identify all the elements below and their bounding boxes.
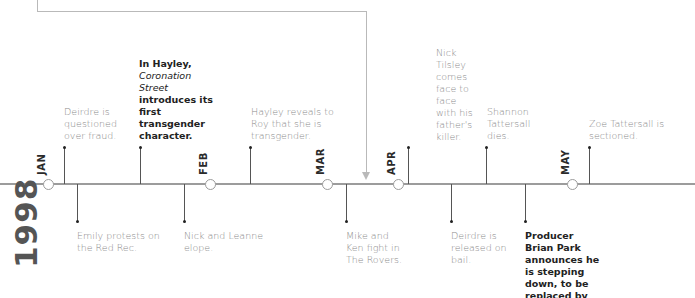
event-tick-dot: [345, 220, 348, 223]
event-tick: [250, 147, 251, 184]
event-text: introduces its first transgender charact…: [139, 94, 213, 141]
event-tick-dot: [63, 146, 66, 149]
arrow-down-icon: [362, 172, 370, 180]
show-title: Coronation Street: [139, 70, 191, 93]
event-shannon-dies: Shannon Tattersall dies.: [487, 106, 547, 142]
event-tick: [525, 184, 526, 222]
month-label-jan: JAN: [36, 154, 47, 175]
event-tick: [140, 147, 141, 184]
event-tick-dot: [524, 220, 527, 223]
event-tick: [589, 147, 590, 184]
event-nick-tilsley: Nick Tilsley comes face to face with his…: [436, 47, 476, 143]
event-tick-dot: [588, 146, 591, 149]
event-tick: [184, 184, 185, 222]
event-zoe-sectioned: Zoe Tattersall is sectioned.: [589, 118, 689, 142]
event-deirdre-questioned: Deirdre is questioned over fraud.: [64, 106, 136, 142]
event-tick-dot: [249, 146, 252, 149]
timeline-axis: [0, 183, 695, 185]
month-marker-feb: [205, 179, 216, 190]
year-label: 1998: [8, 178, 44, 268]
event-tick: [486, 147, 487, 184]
connector-line: [37, 11, 367, 12]
month-marker-may: [567, 179, 578, 190]
month-label-mar: MAR: [315, 148, 326, 175]
event-tick: [77, 184, 78, 222]
event-tick: [451, 184, 452, 222]
event-tick-dot: [485, 146, 488, 149]
connector-line: [366, 11, 367, 178]
event-tick-dot: [183, 220, 186, 223]
month-marker-apr: [393, 179, 404, 190]
event-tick-dot: [76, 220, 79, 223]
event-tick: [64, 147, 65, 184]
timeline-diagram: JAN FEB MAR APR MAY Deirdre is questione…: [0, 0, 695, 298]
event-tick: [346, 184, 347, 222]
event-hayley-introduced: In Hayley, Coronation Street introduces …: [139, 58, 219, 142]
event-tick-dot: [407, 146, 410, 149]
event-hayley-reveals: Hayley reveals to Roy that she is transg…: [251, 106, 337, 142]
event-tick: [408, 147, 409, 184]
event-deirdre-released: Deirdre is released on bail.: [451, 230, 511, 266]
month-label-apr: APR: [386, 151, 397, 175]
month-marker-jan: [43, 179, 54, 190]
event-emily-protests: Emily protests on the Red Rec.: [77, 230, 177, 254]
month-marker-mar: [322, 179, 333, 190]
event-nick-leanne-elope: Nick and Leanne elope.: [184, 230, 264, 254]
event-tick-dot: [139, 146, 142, 149]
event-text: In Hayley,: [139, 58, 192, 69]
month-label-feb: FEB: [198, 152, 209, 175]
month-label-may: MAY: [560, 150, 571, 175]
event-tick-dot: [450, 220, 453, 223]
event-brian-park-steps-down: Producer Brian Park announces he is step…: [525, 230, 605, 298]
event-mike-ken-fight: Mike and Ken fight in The Rovers.: [346, 230, 406, 266]
